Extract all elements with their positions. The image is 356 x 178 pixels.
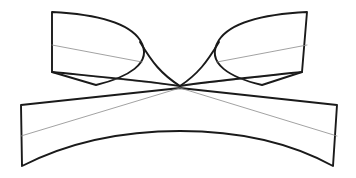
figure-canvas	[0, 0, 356, 178]
geometric-line-drawing	[0, 0, 356, 178]
